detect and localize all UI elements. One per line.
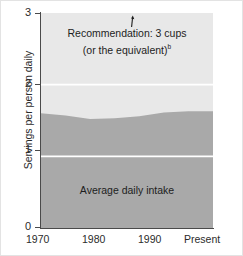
y-axis-title: Servings per person daily — [22, 30, 34, 190]
x-axis-line — [40, 228, 214, 229]
y-tick-mark-0 — [35, 227, 40, 228]
intake-band — [41, 111, 213, 228]
x-tick-label-1990: 1990 — [138, 233, 161, 245]
x-tick-label-1970: 1970 — [26, 233, 49, 245]
y-tick-label-3: 3 — [25, 7, 31, 18]
y-tick-mark-1 — [35, 150, 40, 151]
area-chart-svg — [41, 13, 213, 228]
y-tick-mark-3 — [35, 13, 40, 14]
up-arrow-icon — [124, 14, 138, 28]
x-tick-label-1980: 1980 — [82, 233, 105, 245]
y-axis-line — [40, 12, 41, 229]
y-tick-mark-2 — [35, 84, 40, 85]
chart-figure: 3 2 1 0 Servings per person daily 1970 1… — [0, 0, 243, 256]
plot-area — [41, 13, 213, 228]
x-tick-label-present: Present — [184, 233, 220, 245]
y-tick-label-0: 0 — [25, 221, 31, 232]
